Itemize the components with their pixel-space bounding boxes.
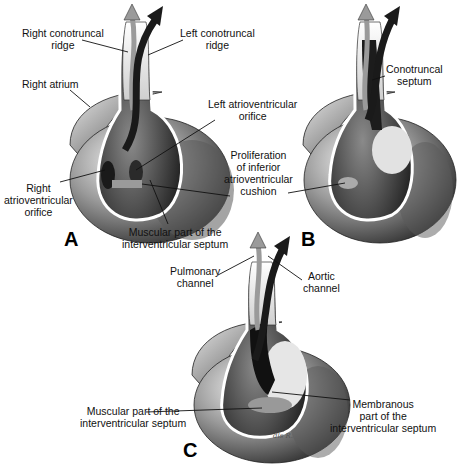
- panel-letter-a: A: [64, 229, 78, 249]
- label-line: orifice: [208, 110, 297, 122]
- panel-b-heart: [303, 4, 456, 243]
- label-pulmonary-channel: Pulmonary channel: [170, 265, 220, 289]
- figure-canvas: Right conotruncal ridge Left conotruncal…: [0, 0, 457, 465]
- label-line: Muscular part of the: [80, 405, 186, 417]
- label-line: Right atrium: [22, 78, 79, 90]
- panel-letter-c: C: [183, 440, 197, 460]
- label-left-av-orifice: Left atrioventricular orifice: [208, 98, 297, 122]
- artist-signature: dls R.: [273, 432, 293, 440]
- label-line: interventricular septum: [80, 417, 186, 429]
- label-conotruncal-septum: Conotruncal septum: [386, 63, 443, 87]
- label-line: septum: [386, 75, 443, 87]
- label-line: Muscular part of the: [122, 226, 228, 238]
- label-right-atrium: Right atrium: [22, 78, 79, 90]
- label-line: ridge: [22, 39, 104, 51]
- label-right-av-orifice: Right atrioventricular orifice: [4, 182, 73, 218]
- panel-letter-b: B: [301, 229, 315, 249]
- label-line: atrioventricular: [4, 194, 73, 206]
- label-line: Right: [4, 182, 73, 194]
- label-line: Right conotruncal: [22, 27, 104, 39]
- label-line: of inferior: [224, 161, 293, 173]
- label-line: ridge: [180, 39, 255, 51]
- label-line: Left atrioventricular: [208, 98, 297, 110]
- label-line: atrioventricular: [224, 173, 293, 185]
- label-line: orifice: [4, 206, 73, 218]
- label-left-conotruncal-ridge: Left conotruncal ridge: [180, 27, 255, 51]
- label-line: part of the: [330, 410, 436, 422]
- label-aortic-channel: Aortic channel: [303, 270, 340, 294]
- label-line: Left conotruncal: [180, 27, 255, 39]
- label-line: Aortic: [303, 270, 340, 282]
- label-line: interventricular septum: [330, 422, 436, 434]
- label-line: Conotruncal: [386, 63, 443, 75]
- label-line: channel: [170, 277, 220, 289]
- label-line: Membranous: [330, 398, 436, 410]
- label-right-conotruncal-ridge: Right conotruncal ridge: [22, 27, 104, 51]
- label-line: Pulmonary: [170, 265, 220, 277]
- label-line: cushion: [224, 185, 293, 197]
- label-muscular-septum-c: Muscular part of the interventricular se…: [80, 405, 186, 429]
- label-inferior-cushion: Proliferation of inferior atrioventricul…: [224, 149, 293, 197]
- label-line: Proliferation: [224, 149, 293, 161]
- label-membranous-septum: Membranous part of the interventricular …: [330, 398, 436, 434]
- label-line: interventricular septum: [122, 238, 228, 250]
- label-muscular-septum-a: Muscular part of the interventricular se…: [122, 226, 228, 250]
- label-line: channel: [303, 282, 340, 294]
